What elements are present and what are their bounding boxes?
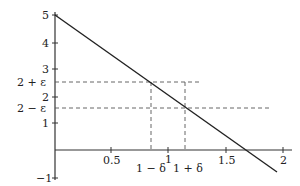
function-line [55, 15, 277, 172]
dashed-guides [55, 82, 270, 150]
eps-minus-label: 2 − ε [17, 102, 46, 115]
y-label-1: 1 [42, 117, 49, 130]
x-label-1-5: 1.5 [218, 154, 236, 167]
x-label-1: 1 [165, 153, 172, 166]
y-label-3: 3 [42, 63, 49, 76]
delta-plus-label: 1 + δ [173, 162, 203, 175]
epsilon-delta-diagram: 5 4 3 2 1 −1 2 + ε 2 − ε 0.5 1 1.5 2 1 −… [0, 0, 300, 186]
x-label-2: 2 [280, 154, 287, 167]
eps-plus-label: 2 + ε [17, 76, 46, 89]
x-label-0-5: 0.5 [103, 154, 121, 167]
y-label-neg1: −1 [36, 172, 52, 185]
y-label-4: 4 [42, 37, 49, 50]
delta-minus-label: 1 − δ [136, 162, 166, 175]
y-label-5: 5 [42, 9, 49, 22]
